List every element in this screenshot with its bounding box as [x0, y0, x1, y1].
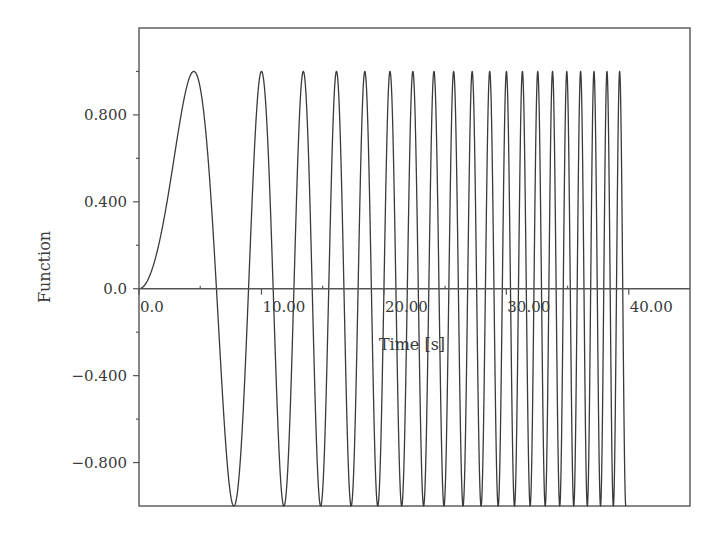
- y-tick-label: 0.400: [84, 193, 127, 211]
- x-tick-label: 30.00: [507, 298, 550, 316]
- x-tick-labels: 0.010.0020.0030.0040.00: [140, 298, 673, 316]
- x-tick-label: 40.00: [630, 298, 673, 316]
- y-tick-label: −0.400: [71, 367, 127, 385]
- x-tick-label: 20.00: [385, 298, 428, 316]
- y-tick-label: 0.0: [103, 280, 127, 298]
- x-tick-label: 10.00: [262, 298, 305, 316]
- y-tick-label: 0.800: [84, 106, 127, 124]
- y-axis: −0.800−0.4000.00.4000.800: [71, 71, 139, 471]
- chart: −0.800−0.4000.00.4000.800 0.010.0020.003…: [0, 0, 724, 533]
- y-tick-label: −0.800: [71, 454, 127, 472]
- x-axis: [139, 286, 690, 295]
- y-axis-label: Function: [35, 231, 54, 303]
- x-axis-label: Time [s]: [379, 335, 445, 354]
- x-tick-label: 0.0: [140, 298, 164, 316]
